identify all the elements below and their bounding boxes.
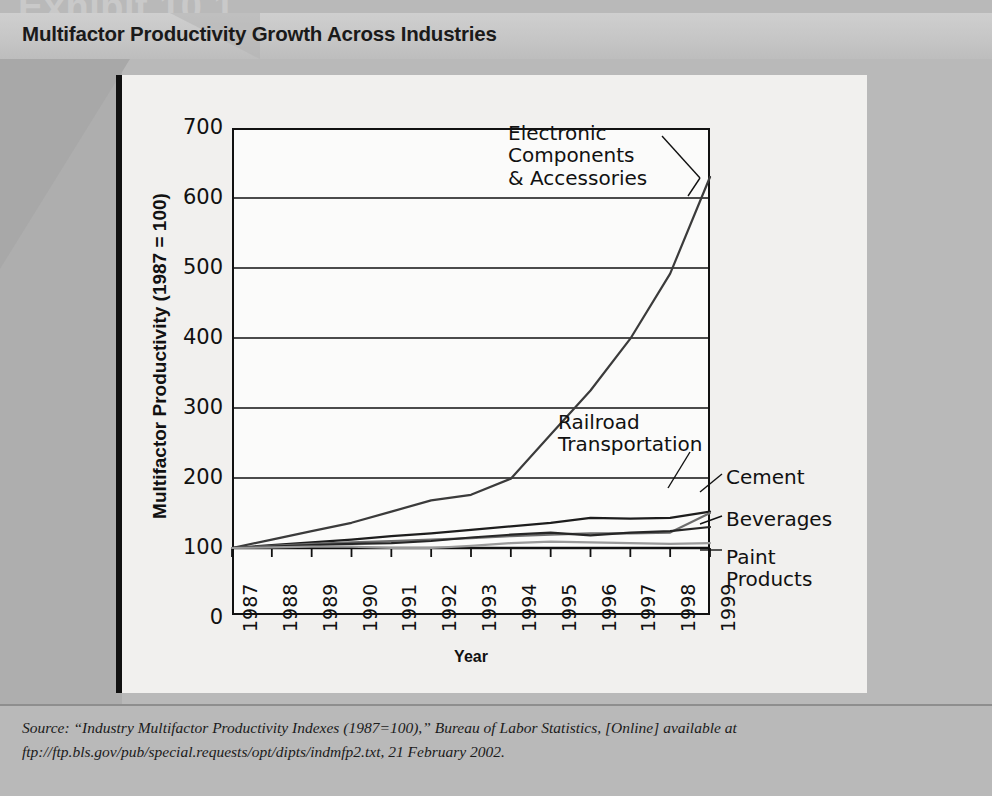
annotation-electronic-components: Electronic Components & Accessories: [508, 122, 647, 189]
x-tick-label: 1992: [438, 562, 460, 632]
annotation-railroad-transportation: Railroad Transportation: [558, 411, 702, 456]
x-tick-label: 1989: [319, 562, 341, 632]
x-tick-label: 1991: [398, 562, 420, 632]
footer-divider: [0, 704, 992, 706]
annotation-paint-products: Paint Products: [726, 546, 812, 591]
annotation-beverages: Beverages: [726, 508, 832, 530]
x-axis-tick-labels: 1987198819891990199119921993199419951996…: [0, 0, 992, 796]
x-tick-label: 1987: [239, 562, 261, 632]
x-tick-label: 1988: [279, 562, 301, 632]
x-tick-label: 1990: [359, 562, 381, 632]
x-tick-label: 1995: [558, 562, 580, 632]
annotation-cement: Cement: [726, 466, 805, 488]
source-note-text: Source: “Industry Multifactor Productivi…: [22, 719, 737, 760]
x-tick-label: 1994: [518, 562, 540, 632]
x-tick-label: 1996: [598, 562, 620, 632]
x-tick-label: 1993: [478, 562, 500, 632]
x-tick-label: 1997: [637, 562, 659, 632]
source-note: Source: “Industry Multifactor Productivi…: [22, 716, 970, 763]
x-tick-label: 1998: [677, 562, 699, 632]
